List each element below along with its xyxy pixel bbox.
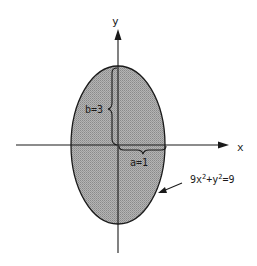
semi-major-label: b=3 bbox=[85, 104, 103, 115]
ellipse-diagram: y x b=3 a=1 9x2+y2=9 bbox=[0, 0, 257, 266]
semi-minor-label: a=1 bbox=[130, 157, 148, 168]
y-axis-label: y bbox=[112, 15, 119, 28]
x-axis-label: x bbox=[237, 141, 244, 154]
svg-text:9x2+y2=9: 9x2+y2=9 bbox=[190, 173, 235, 185]
equation-label: 9x2+y2=9 bbox=[190, 173, 235, 185]
x-axis-arrow-icon bbox=[218, 142, 229, 149]
y-axis-arrow-icon bbox=[115, 29, 122, 40]
equation-pointer-arrow-icon bbox=[158, 183, 182, 193]
